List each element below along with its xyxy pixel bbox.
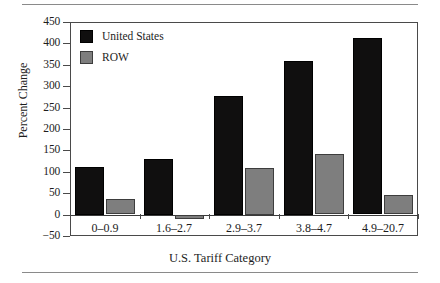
x-axis-tick [348, 214, 349, 219]
y-axis-tick-label-text: 50 [26, 187, 60, 199]
figure-bottom-rule [22, 272, 418, 273]
y-axis-tick-label: 400 [24, 37, 60, 49]
black-square-swatch-icon [80, 30, 93, 43]
x-axis-tick [209, 214, 210, 219]
figure-container: Percent Change 4504003503002502001501005… [0, 0, 440, 283]
y-axis-tick [63, 86, 70, 87]
y-axis-tick-label-text: 150 [26, 144, 60, 156]
y-axis-tick-label-text: 450 [26, 16, 60, 28]
y-axis-tick-label: 150 [24, 144, 60, 156]
x-axis-title: U.S. Tariff Category [0, 251, 440, 265]
bar-us-1[interactable] [144, 159, 173, 215]
y-axis-tick [63, 129, 70, 130]
bar-row-3[interactable] [315, 154, 344, 214]
y-axis-tick-label: 100 [24, 166, 60, 178]
legend-label-united-states: United States [102, 30, 164, 42]
legend-label-row: ROW [102, 51, 129, 63]
y-axis-tick [63, 22, 70, 23]
y-axis-tick [63, 43, 70, 44]
zero-baseline [70, 215, 418, 216]
bar-row-2[interactable] [245, 168, 274, 215]
y-axis-tick-label-text: 350 [26, 59, 60, 71]
y-axis-tick-label: 350 [24, 59, 60, 71]
y-axis-tick-label: 450 [24, 16, 60, 28]
x-axis-tick [279, 214, 280, 219]
gray-square-swatch-icon [80, 51, 93, 64]
bar-row-4[interactable] [384, 195, 413, 214]
y-axis-tick [63, 65, 70, 66]
x-axis-category-label: 0–0.9 [92, 222, 119, 235]
y-axis-tick-label-text: 100 [26, 166, 60, 178]
y-axis-tick-label: 0 [24, 209, 60, 221]
y-axis-tick-label-text: 250 [26, 102, 60, 114]
x-axis-category-label: 4.9–20.7 [362, 222, 404, 235]
y-axis-tick [63, 150, 70, 151]
y-axis-tick [63, 215, 70, 216]
bar-us-3[interactable] [284, 61, 313, 215]
bar-row-0[interactable] [106, 199, 135, 214]
x-axis-tick [418, 214, 419, 219]
bar-us-2[interactable] [214, 96, 243, 215]
y-axis-tick-label-text: 0 [26, 209, 60, 221]
y-axis-tick-label: 50 [24, 187, 60, 199]
y-axis-tick [63, 108, 70, 109]
y-axis-tick [63, 193, 70, 194]
legend-item-united-states[interactable]: United States [80, 27, 164, 45]
chart-legend: United States ROW [80, 27, 164, 69]
y-axis-tick-label: 250 [24, 102, 60, 114]
y-axis-tick-label: 200 [24, 123, 60, 135]
figure-top-rule [22, 4, 418, 5]
y-axis-tick-label-text: 300 [26, 80, 60, 92]
x-axis-tick [140, 214, 141, 219]
x-axis-category-label: 3.8–4.7 [296, 222, 332, 235]
x-axis-category-label: 2.9–3.7 [226, 222, 262, 235]
bar-us-4[interactable] [353, 38, 382, 214]
x-axis-tick [70, 214, 71, 219]
x-axis-category-label: 1.6–2.7 [156, 222, 192, 235]
y-axis-tick [63, 172, 70, 173]
y-axis-tick-label-text: 200 [26, 123, 60, 135]
bar-row-1[interactable] [175, 215, 204, 219]
y-axis-tick-label: 300 [24, 80, 60, 92]
y-axis-tick-label: −50 [24, 230, 60, 242]
legend-item-row[interactable]: ROW [80, 48, 164, 66]
y-axis-tick-label-text: −50 [26, 230, 60, 242]
y-axis-tick-label-text: 400 [26, 37, 60, 49]
y-axis-tick [63, 236, 70, 237]
bar-us-0[interactable] [75, 167, 104, 215]
